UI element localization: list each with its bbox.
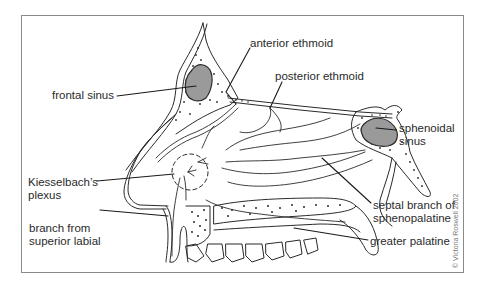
kiesselbach-plexus-region — [172, 154, 208, 190]
label-superior-labial-line2: superior labial — [29, 235, 101, 248]
label-anterior-ethmoid: anterior ethmoid — [250, 37, 333, 50]
label-kiesselbach-line1: Kiesselbach’s — [28, 176, 98, 189]
label-septal-branch-line1: septal branch of — [373, 199, 455, 212]
cribriform-plate — [228, 98, 392, 114]
label-septal-branch-line2: sphenopalatine — [373, 212, 451, 225]
label-sphenoidal-sinus-line2: sinus — [399, 135, 426, 148]
sphenoidal-sinus-cavity — [361, 118, 397, 146]
external-nose — [124, 114, 176, 262]
teeth — [186, 238, 318, 262]
sphenoid-bone — [352, 106, 431, 197]
frontal-sinus-cavity — [185, 65, 212, 101]
septal-arteries — [156, 104, 372, 256]
label-greater-palatine: greater palatine — [370, 235, 450, 248]
copyright-notice: © Victoria Roswell 2002 — [452, 194, 459, 268]
label-posterior-ethmoid: posterior ethmoid — [275, 70, 364, 83]
label-frontal-sinus: frontal sinus — [52, 89, 114, 102]
label-sphenoidal-sinus-line1: sphenoidal — [399, 122, 455, 135]
label-kiesselbach-line2: plexus — [28, 189, 61, 202]
frontal-bone — [126, 23, 238, 172]
label-superior-labial-line1: branch from — [29, 222, 90, 235]
